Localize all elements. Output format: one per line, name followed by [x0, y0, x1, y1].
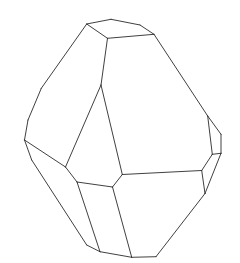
crystal-edge — [100, 252, 132, 258]
crystal-edge — [113, 175, 123, 188]
crystal-edge — [202, 171, 205, 194]
crystal-edge — [140, 25, 154, 34]
crystal-edge — [156, 194, 205, 257]
crystal-edge — [205, 153, 221, 193]
crystal-edge — [122, 171, 201, 175]
crystal-edge — [66, 167, 78, 182]
crystal-edge — [66, 85, 102, 167]
crystal-edge — [25, 120, 29, 140]
crystal-edge — [77, 182, 100, 252]
crystal-edge — [154, 34, 208, 116]
crystal-edge — [113, 187, 132, 257]
crystal-edge — [77, 182, 113, 187]
crystal-edge — [108, 34, 155, 38]
crystal-edge — [101, 38, 108, 85]
crystal-edge — [212, 153, 221, 154]
crystal-edge — [28, 88, 41, 120]
crystal-edge — [87, 24, 108, 38]
crystal-edge — [87, 19, 111, 24]
crystal-edge — [25, 140, 32, 160]
crystal-edge — [202, 154, 213, 170]
crystal-drawing — [0, 0, 240, 263]
crystal-edge — [111, 19, 140, 25]
crystal-edge — [32, 160, 87, 245]
crystal-edge — [132, 257, 156, 258]
crystal-edge — [101, 85, 122, 175]
crystal-edge — [41, 24, 86, 88]
crystal-edge — [25, 140, 66, 167]
